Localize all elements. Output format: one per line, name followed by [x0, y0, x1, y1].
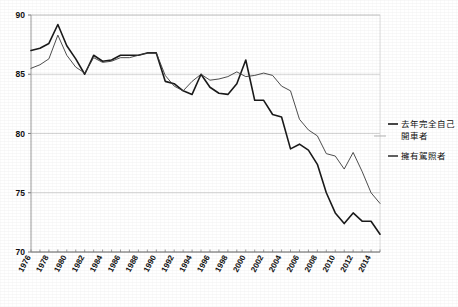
x-tick-label-group: 1982 — [70, 253, 87, 273]
x-tick-label-group: 1980 — [52, 253, 69, 273]
x-tick-label: 2012 — [339, 253, 356, 273]
x-tick-label: 2008 — [303, 253, 320, 273]
x-tick-label: 1998 — [213, 253, 230, 273]
legend-label-1: 擁有駕照者 — [401, 151, 446, 161]
y-tick-label: 80 — [16, 129, 26, 139]
x-tick-label: 1996 — [195, 253, 212, 273]
x-tick-label-group: 2014 — [357, 253, 374, 273]
legend: 去年完全自己開車者擁有駕照者 — [388, 119, 455, 161]
line-chart: 7075808590197619781980198219841986198819… — [0, 0, 458, 307]
x-tick-label: 2000 — [231, 253, 248, 273]
x-tick-label-group: 1988 — [124, 253, 141, 273]
x-tick-label-group: 1984 — [88, 253, 105, 273]
x-tick-label-group: 2012 — [339, 253, 356, 273]
x-tick-label: 1986 — [106, 253, 123, 273]
x-tick-label-group: 1996 — [195, 253, 212, 273]
x-tick-label: 1980 — [52, 253, 69, 273]
x-tick-label: 2002 — [249, 253, 266, 273]
x-tick-label-group: 1978 — [34, 253, 51, 273]
x-tick-label-group: 2006 — [285, 253, 302, 273]
chart-container: 7075808590197619781980198219841986198819… — [0, 0, 458, 307]
x-tick-label-group: 1994 — [178, 253, 195, 273]
x-tick-label: 1990 — [142, 253, 159, 273]
x-tick-label-group: 1986 — [106, 253, 123, 273]
x-tick-label-group: 2008 — [303, 253, 320, 273]
x-tick-label: 1992 — [160, 253, 177, 273]
x-tick-label-group: 2010 — [321, 253, 338, 273]
x-tick-label: 2004 — [267, 253, 284, 273]
series-line-1 — [31, 35, 380, 203]
y-tick-label: 75 — [16, 188, 26, 198]
x-tick-label: 1982 — [70, 253, 87, 273]
x-tick-label-group: 2002 — [249, 253, 266, 273]
x-tick-label: 1988 — [124, 253, 141, 273]
x-tick-label: 1978 — [34, 253, 51, 273]
series-line-0 — [31, 24, 380, 234]
y-tick-label: 85 — [16, 69, 26, 79]
x-tick-label: 2014 — [357, 253, 374, 273]
legend-label-0: 去年完全自己 — [401, 119, 455, 129]
x-tick-label-group: 2000 — [231, 253, 248, 273]
x-tick-label-group: 1998 — [213, 253, 230, 273]
y-tick-label: 90 — [16, 10, 26, 20]
x-tick-label: 2006 — [285, 253, 302, 273]
x-tick-label-group: 1992 — [160, 253, 177, 273]
x-tick-label: 1994 — [178, 253, 195, 273]
x-tick-label: 2010 — [321, 253, 338, 273]
legend-label-0: 開車者 — [401, 131, 428, 141]
x-tick-label-group: 2004 — [267, 253, 284, 273]
x-tick-label-group: 1990 — [142, 253, 159, 273]
x-tick-label: 1984 — [88, 253, 105, 273]
